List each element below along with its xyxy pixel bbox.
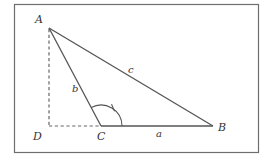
vertex-label-A: A <box>34 13 43 26</box>
side-label-b: b <box>72 83 78 94</box>
vertex-label-B: B <box>217 121 226 134</box>
vertex-label-D: D <box>32 130 42 143</box>
side-c <box>49 28 213 126</box>
side-label-c: c <box>128 64 134 75</box>
vertex-label-C: C <box>97 130 106 143</box>
side-label-a: a <box>156 128 162 139</box>
side-b <box>49 28 101 126</box>
triangle-diagram: A B C D a b c <box>0 0 270 161</box>
